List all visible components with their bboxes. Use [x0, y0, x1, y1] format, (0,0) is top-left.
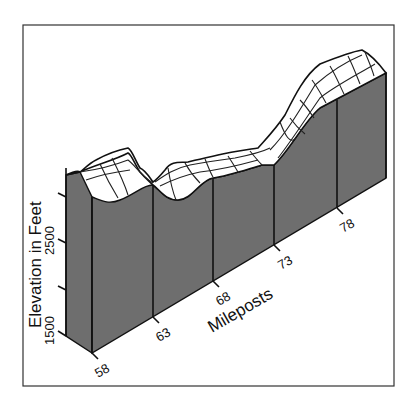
elevation-profile-chart: 1500 2500 Elevation in Feet 58 63 68 73 …: [0, 0, 419, 411]
x-tick-label-73: 73: [275, 252, 295, 272]
x-axis-title: Mileposts: [205, 284, 277, 336]
left-side-face: [66, 172, 92, 353]
y-axis-title: Elevation in Feet: [26, 201, 45, 328]
y-axis-ticks: [58, 193, 66, 336]
x-tick-label-63: 63: [153, 324, 173, 344]
x-tick-label-58: 58: [92, 360, 112, 380]
x-tick-label-78: 78: [337, 215, 357, 235]
